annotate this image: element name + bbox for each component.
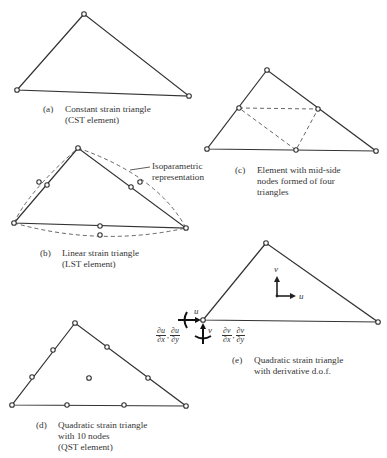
centroid-node: [87, 376, 92, 381]
side-node: [122, 403, 126, 407]
annotation-leader-line: [130, 167, 150, 170]
side-node: [65, 403, 69, 407]
node: [376, 320, 381, 325]
midside-node: [98, 224, 102, 228]
node: [184, 226, 189, 231]
side-node: [51, 348, 55, 352]
u-derivative-dofs: ∂u ∂x , ∂u ∂y: [156, 327, 180, 344]
midside-node: [237, 106, 241, 110]
caption-line: Element with mid-side: [257, 165, 341, 176]
caption-label: (a): [43, 104, 53, 115]
outer-triangle-edges: [207, 70, 376, 151]
panel-c-four-triangle-element: [205, 68, 379, 154]
side-node: [146, 376, 150, 380]
caption-label: (b): [40, 248, 51, 259]
node: [264, 241, 269, 246]
caption-line: (LST element): [62, 259, 116, 270]
node: [76, 146, 81, 151]
dof-label-u: u: [194, 306, 199, 316]
node: [205, 147, 210, 152]
triangle-elements-figure: v u u v: [0, 0, 387, 458]
midside-node: [45, 183, 49, 187]
isoparametric-node: [37, 180, 41, 184]
node: [187, 94, 192, 99]
node: [184, 404, 189, 409]
fraction: ∂u ∂x: [156, 327, 166, 344]
isoparametric-annotation: Isoparametric representation: [152, 161, 204, 182]
caption-line: Linear strain triangle: [62, 248, 139, 259]
midside-node: [316, 107, 320, 111]
caption-line: triangles: [257, 187, 289, 198]
caption-line: Constant strain triangle: [65, 104, 151, 115]
node: [10, 403, 15, 408]
panel-a-cst-triangle: [15, 12, 192, 99]
inner-subdivision-dashed: [239, 108, 318, 150]
derivative-triangle-edges: [203, 243, 378, 322]
caption-line: with 10 nodes: [58, 431, 110, 442]
v-derivative-dofs: ∂v ∂x , ∂v ∂y: [222, 327, 245, 344]
fraction: ∂v ∂y: [236, 327, 246, 344]
annotation-line: representation: [152, 172, 204, 183]
caption-line: Quadratic strain triangle: [254, 355, 343, 366]
node: [201, 318, 206, 323]
dof-label-v: v: [208, 325, 212, 335]
axis-label-v: v: [274, 264, 278, 274]
node: [265, 68, 270, 73]
node: [82, 12, 87, 17]
caption-label: (e): [232, 355, 242, 366]
fraction: ∂v ∂x: [222, 327, 232, 344]
side-node: [105, 345, 109, 349]
annotation-line: Isoparametric: [152, 161, 204, 172]
isoparametric-node: [98, 233, 102, 237]
panel-e-derivative-dof-triangle: v u u v: [178, 241, 380, 344]
caption-label: (c): [235, 165, 245, 176]
caption-label: (d): [36, 420, 47, 431]
caption-line: nodes formed of four: [257, 176, 335, 187]
isoparametric-node: [138, 180, 142, 184]
caption-line: (CST element): [65, 115, 119, 126]
node: [15, 88, 20, 93]
local-axes-icon: [274, 276, 296, 299]
side-node: [30, 375, 34, 379]
axis-label-u: u: [299, 291, 304, 301]
midside-node: [129, 185, 133, 189]
lst-triangle-edges: [14, 148, 186, 228]
cst-triangle-edges: [17, 14, 189, 96]
node: [73, 321, 78, 326]
midside-node: [294, 148, 298, 152]
fraction: ∂u ∂y: [170, 327, 180, 344]
caption-line: with derivative d.o.f.: [254, 366, 331, 377]
caption-line: (QST element): [58, 442, 113, 453]
caption-line: Quadratic strain triangle: [58, 420, 147, 431]
node: [374, 149, 379, 154]
panel-b-lst-triangle: [12, 146, 189, 238]
node: [12, 221, 17, 226]
